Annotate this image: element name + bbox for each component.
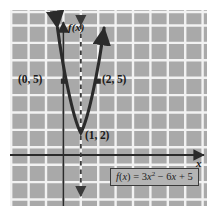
graph-figure: f(x) x (0, 5) (2, 5) (1, 2) f(x) = 3x2 −… [0,0,214,214]
equation-c-term: + 5 [176,171,192,182]
point-label-y-intercept: (0, 5) [18,74,42,86]
equation-box: f(x) = 3x2 − 6x + 5 [110,168,199,186]
point-label-vertex: (1, 2) [85,130,109,142]
point-label-symmetric-point: (2, 5) [102,74,126,86]
equation-b-term: − 6 [155,171,171,182]
equation-equals: = [131,171,142,182]
y-axis-label: f(x) [68,22,85,33]
